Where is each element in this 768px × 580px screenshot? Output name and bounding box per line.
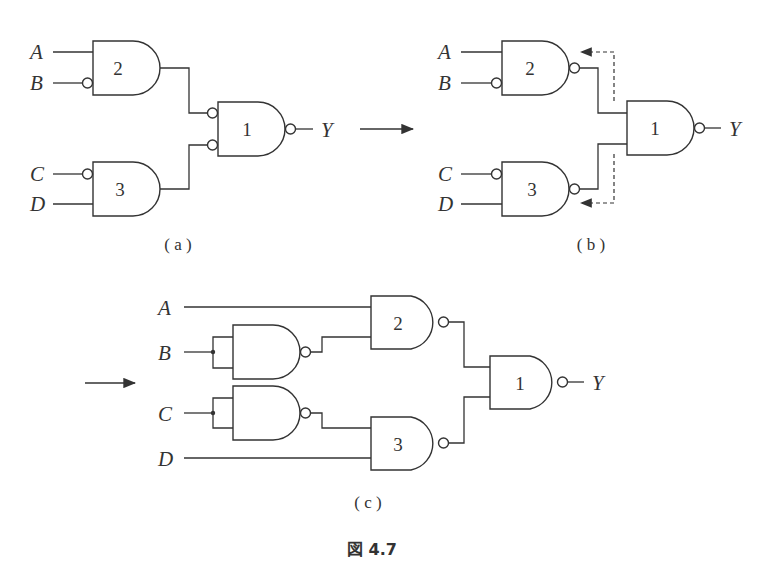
gate-3-label: 3	[393, 434, 403, 455]
inversion-bubble	[492, 169, 502, 179]
output-bubble	[695, 123, 705, 133]
input-label-a: A	[156, 296, 171, 320]
wire-invc-to-g3	[311, 413, 371, 428]
gate-inverter-b	[233, 325, 300, 379]
wire-b-tie	[213, 337, 233, 368]
wire-g2-to-g1	[580, 68, 627, 113]
input-label-b: B	[30, 71, 43, 95]
inversion-bubble	[492, 78, 502, 88]
gate-inverter-c	[233, 386, 300, 440]
output-bubble	[570, 63, 580, 73]
wire-g3-to-g1	[449, 397, 490, 443]
output-bubble	[301, 347, 311, 357]
input-label-c: C	[438, 162, 453, 186]
inversion-bubble	[83, 169, 93, 179]
panel-a-caption: ( a )	[164, 235, 191, 254]
input-label-c: C	[158, 402, 173, 426]
figure-caption: 図 4.7	[347, 540, 397, 559]
output-bubble	[558, 377, 568, 387]
inversion-bubble	[208, 108, 218, 118]
gate-1-label: 1	[515, 373, 525, 394]
gate-3-label: 3	[527, 179, 537, 200]
gate-3-label: 3	[115, 179, 125, 200]
input-label-d: D	[29, 192, 45, 216]
gate-2-nand	[502, 41, 569, 95]
output-label-y: Y	[592, 371, 606, 395]
inversion-bubble	[208, 140, 218, 150]
gate-3-and	[93, 162, 160, 216]
output-bubble	[439, 317, 449, 327]
panel-c-caption: ( c )	[354, 493, 381, 512]
gate-2-label: 2	[393, 313, 403, 334]
gate-1-label: 1	[242, 119, 252, 140]
output-bubble	[301, 408, 311, 418]
junction-dot	[211, 411, 215, 415]
panel-c: A B C D 2 3 1	[156, 296, 606, 512]
gate-1-label: 1	[650, 118, 660, 139]
input-label-c: C	[30, 162, 45, 186]
gate-2-label: 2	[525, 58, 535, 79]
wire-g3-to-g1	[160, 145, 207, 189]
input-label-b: B	[438, 71, 451, 95]
wire-g2-to-g1	[449, 322, 490, 367]
input-label-b: B	[158, 341, 171, 365]
output-bubble	[286, 124, 296, 134]
junction-dot	[211, 350, 215, 354]
input-label-d: D	[157, 447, 173, 471]
output-label-y: Y	[729, 117, 743, 141]
input-label-a: A	[436, 40, 451, 64]
wire-g3-to-g1	[580, 144, 627, 189]
panel-b-caption: ( b )	[577, 235, 605, 254]
input-label-a: A	[28, 40, 43, 64]
output-bubble	[570, 184, 580, 194]
output-label-y: Y	[321, 118, 335, 142]
gate-2-label: 2	[113, 58, 123, 79]
inversion-bubble	[83, 78, 93, 88]
gate-2-and	[93, 41, 160, 95]
logic-circuit-figure: A B C D 2 3 1 Y ( a ) A B C D	[0, 0, 768, 580]
wire-g2-to-g1	[160, 68, 207, 113]
panel-b: A B C D 2 3 1 Y ( b )	[436, 40, 743, 254]
output-bubble	[439, 438, 449, 448]
wire-invb-to-g2	[311, 337, 371, 352]
gate-1-nand	[627, 101, 694, 155]
panel-a: A B C D 2 3 1 Y ( a )	[28, 40, 335, 254]
input-label-d: D	[437, 192, 453, 216]
wire-c-tie	[213, 398, 233, 428]
